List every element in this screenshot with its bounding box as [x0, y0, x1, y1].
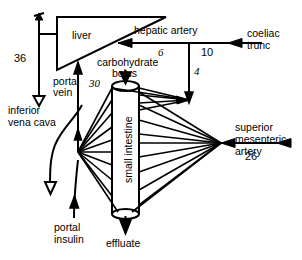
small-intestine-label: small intestine — [122, 116, 134, 183]
superior-mesenteric-artery-label-line1: superior — [235, 122, 273, 134]
diagram-canvas: liver hepatic artery coeliac trunc carbo… — [0, 0, 302, 260]
inferior-vena-cava-label-line1: inferior — [8, 105, 40, 117]
portal-insulin-label-line1: portal — [54, 222, 80, 234]
coeliac-trunc-arrowhead-icon — [228, 39, 242, 48]
effluate-arrowhead-icon — [120, 220, 131, 234]
portal-vein-arrowhead-icon — [74, 62, 82, 74]
superior-mesenteric-artery-flow-value: 26 — [245, 150, 257, 162]
coeliac-trunc-label-line2: trunc — [247, 40, 270, 52]
hepatic-artery-label: hepatic artery — [134, 25, 198, 37]
inferior-vena-cava-flow-value: 36 — [14, 52, 26, 64]
portal-vein-mid-arrowhead-icon — [75, 129, 82, 140]
portal-vein-flow-value: 30 — [89, 77, 100, 89]
superior-mesenteric-arrowhead-icon — [221, 139, 235, 148]
portal-vein-label-line2: vein — [53, 87, 72, 99]
carbohydrate-bolus-label-line2: bolus — [112, 68, 137, 80]
inferior-vena-cava-curve-arrowhead-icon — [45, 182, 56, 194]
hepatic-artery-flow-value: 6 — [158, 46, 164, 58]
coeliac-trunc-label-line1: coeliac — [247, 28, 280, 40]
portal-insulin-arrowhead-icon — [70, 196, 79, 208]
gastric-branch-flow-value: 4 — [194, 65, 200, 77]
effluate-label: effluate — [106, 238, 140, 250]
liver-label: liver — [72, 30, 91, 42]
coeliac-trunc-flow-value: 10 — [201, 46, 213, 58]
portal-insulin-line — [74, 160, 78, 218]
portal-insulin-label-line2: insulin — [54, 234, 84, 246]
superior-mesenteric-artery-label-line2: mesenteric — [235, 134, 286, 146]
right-lower-arterial-fan — [132, 92, 221, 212]
inferior-vena-cava-label-line2: vena cava — [8, 117, 56, 129]
